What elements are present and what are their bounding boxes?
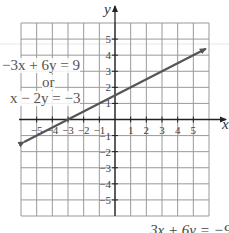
- svg-text:5: 5: [191, 124, 197, 136]
- svg-text:4: 4: [175, 124, 181, 136]
- svg-text:1: 1: [128, 124, 134, 136]
- coordinate-plot: yx−5−4−3−2−11234554321−1−2−3−4−5: [0, 0, 229, 233]
- svg-text:−4: −4: [99, 178, 111, 190]
- svg-text:−2: −2: [78, 124, 90, 136]
- svg-text:2: 2: [106, 81, 112, 93]
- equation-label-2: x − 2y = −3: [10, 91, 80, 106]
- equation-label-1: −3x + 6y = 9: [2, 58, 80, 73]
- svg-text:−3: −3: [99, 162, 111, 174]
- svg-text:y: y: [102, 1, 111, 17]
- svg-text:x: x: [221, 116, 229, 132]
- svg-text:−1: −1: [99, 130, 111, 142]
- svg-text:5: 5: [106, 33, 112, 45]
- svg-text:−3: −3: [62, 124, 74, 136]
- svg-text:−2: −2: [99, 146, 111, 158]
- svg-text:3: 3: [159, 124, 165, 136]
- bottom-equation: 3x + 6y = −9: [150, 222, 229, 233]
- equation-label-or: or: [42, 75, 55, 90]
- svg-text:3: 3: [106, 65, 112, 77]
- svg-text:−5: −5: [99, 194, 111, 206]
- svg-text:4: 4: [106, 49, 112, 61]
- svg-text:2: 2: [144, 124, 150, 136]
